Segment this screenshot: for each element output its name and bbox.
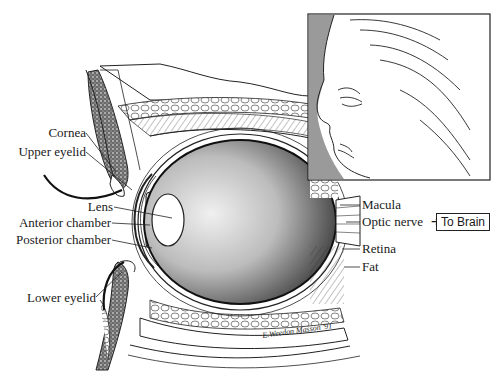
lens	[152, 194, 184, 246]
eye-cross-section-illustration	[0, 0, 496, 380]
label-macula: Macula	[362, 198, 401, 212]
label-cornea: Cornea	[48, 126, 86, 140]
label-retina: Retina	[362, 242, 396, 256]
to-brain-box: To Brain	[436, 213, 490, 231]
label-fat: Fat	[362, 260, 379, 274]
label-upper-eyelid: Upper eyelid	[18, 145, 86, 159]
label-lower-eyelid: Lower eyelid	[27, 291, 96, 305]
label-posterior-chamber: Posterior chamber	[16, 233, 111, 247]
label-anterior-chamber: Anterior chamber	[19, 216, 111, 230]
optic-nerve	[336, 196, 360, 246]
orbit-upper-tissue	[100, 64, 310, 138]
label-lens: Lens	[88, 200, 113, 214]
label-optic-nerve: Optic nerve	[362, 215, 423, 229]
upper-lid-structure	[86, 70, 140, 196]
signature-year: '91	[322, 321, 333, 331]
lower-lid-structure	[96, 261, 135, 370]
inset-face-panel	[308, 14, 490, 180]
